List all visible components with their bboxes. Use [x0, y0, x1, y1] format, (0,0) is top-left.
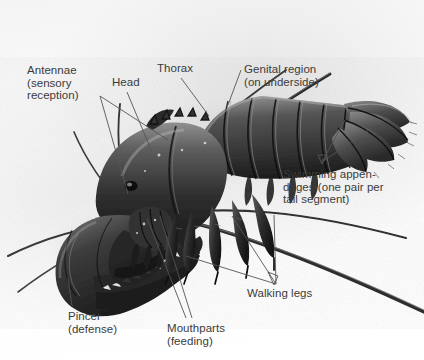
- label-pincer: Pincer(defense): [68, 310, 117, 335]
- label-genital-region-line-2: (on underside): [244, 76, 319, 89]
- label-thorax-line-1: Thorax: [157, 62, 193, 75]
- label-walking-legs: Walking legs: [247, 287, 312, 300]
- label-swimming-appendages-line-2: dages (one pair per: [283, 181, 384, 194]
- label-genital-region-line-1: Genital region: [244, 63, 319, 76]
- label-mouthparts-line-2: (feeding): [167, 335, 225, 348]
- label-pincer-line-1: Pincer: [68, 310, 117, 323]
- label-mouthparts-line-1: Mouthparts: [167, 322, 225, 335]
- label-head: Head: [112, 76, 140, 89]
- label-thorax: Thorax: [157, 62, 193, 75]
- label-genital-region: Genital region(on underside): [244, 63, 319, 88]
- label-walking-legs-line-1: Walking legs: [247, 287, 312, 300]
- label-head-line-1: Head: [112, 76, 140, 89]
- label-swimming-appendages-line-1: Swimming appen-: [283, 168, 384, 181]
- label-swimming-appendages-line-3: tail segment): [283, 193, 384, 206]
- label-swimming-appendages: Swimming appen-dages (one pair pertail s…: [283, 168, 384, 206]
- label-mouthparts: Mouthparts(feeding): [167, 322, 225, 347]
- lobster-anatomy-figure: Antennae(sensoryreception)HeadThoraxGeni…: [0, 0, 424, 360]
- label-antennae-line-3: reception): [27, 89, 79, 102]
- label-antennae-line-1: Antennae: [27, 64, 79, 77]
- label-pincer-line-2: (defense): [68, 323, 117, 336]
- label-antennae-line-2: (sensory: [27, 77, 79, 90]
- label-antennae: Antennae(sensoryreception): [27, 64, 79, 102]
